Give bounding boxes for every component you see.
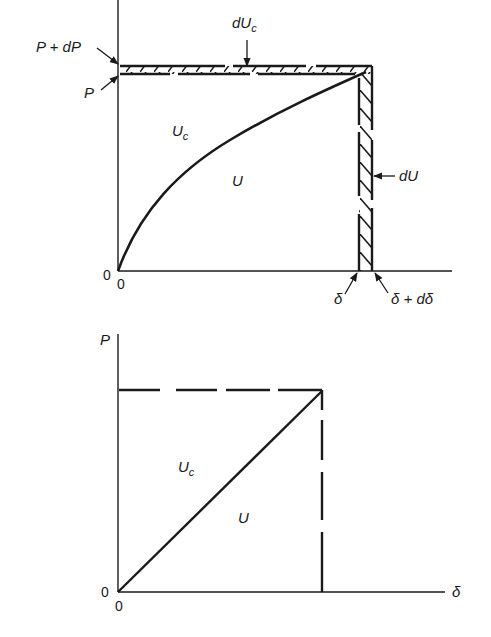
label-P: P [84, 84, 94, 101]
label-delta-plus-ddelta: δ + dδ [391, 290, 434, 307]
arrow-delta [345, 273, 357, 294]
linear-load-line [118, 391, 322, 592]
label-Uc-lower: Uc [178, 458, 195, 478]
label-delta-axis: δ [452, 583, 461, 600]
dUc-strip [120, 66, 372, 74]
lower-diagram: P Uc U 0 0 δ [100, 331, 461, 614]
label-dUc: dUc [232, 14, 257, 34]
label-U-lower: U [238, 509, 249, 526]
label-Uc-upper: Uc [172, 122, 189, 142]
label-origin-x-lower: 0 [115, 598, 123, 614]
dU-strip [359, 66, 372, 271]
label-P-plus-dP: P + dP [36, 38, 81, 55]
label-origin-y-upper: 0 [103, 267, 111, 283]
label-origin-y-lower: 0 [101, 584, 109, 600]
label-delta: δ [334, 290, 343, 307]
figure-canvas: P + dP P dUc Uc U dU 0 0 δ δ + dδ [0, 0, 491, 637]
label-origin-x-upper: 0 [117, 276, 125, 292]
arrow-P [101, 76, 118, 90]
label-P-axis: P [100, 331, 110, 348]
arrow-delta-plus-ddelta [375, 273, 388, 293]
arrow-P-plus-dP [97, 48, 118, 64]
upper-diagram: P + dP P dUc Uc U dU 0 0 δ δ + dδ [36, 0, 452, 307]
label-dU: dU [399, 167, 418, 184]
label-U-upper: U [232, 172, 243, 189]
